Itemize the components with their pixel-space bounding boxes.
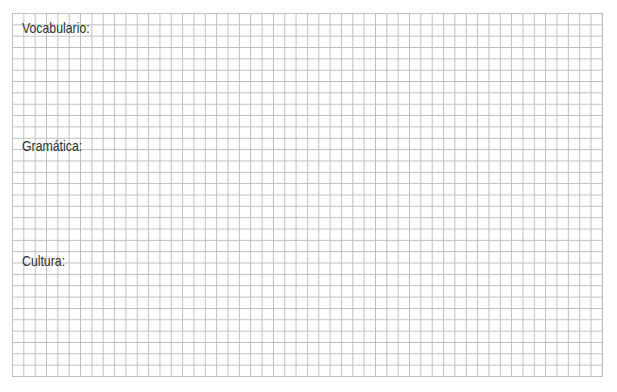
section-label-gramatica: Gramática: xyxy=(22,138,82,153)
section-label-vocabulario: Vocabulario: xyxy=(22,20,90,35)
section-label-cultura: Cultura: xyxy=(22,253,65,268)
graph-paper-grid xyxy=(12,13,603,377)
